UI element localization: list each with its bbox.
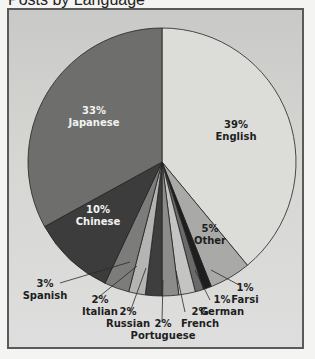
label-english-name: English xyxy=(215,131,256,143)
label-farsi-pct: 1% xyxy=(231,282,258,294)
label-japanese-name: Japanese xyxy=(68,117,119,129)
label-farsi-name: Farsi xyxy=(231,294,258,306)
label-french-name: French xyxy=(181,318,219,330)
label-german-name: German xyxy=(200,306,244,318)
label-spanish-pct: 3% xyxy=(23,278,68,290)
label-japanese-pct: 33% xyxy=(68,105,119,117)
label-english-pct: 39% xyxy=(215,119,256,131)
label-italian-pct: 2% xyxy=(82,294,118,306)
label-portuguese-name: Portuguese xyxy=(131,330,196,342)
label-other-pct: 5% xyxy=(194,223,226,235)
label-other-name: Other xyxy=(194,235,226,247)
label-chinese: 10% Chinese xyxy=(76,204,121,228)
label-other: 5% Other xyxy=(194,223,226,247)
label-japanese: 33% Japanese xyxy=(68,105,119,129)
label-russian-pct: 2% xyxy=(106,306,150,318)
pie-slices xyxy=(28,28,296,296)
label-chinese-pct: 10% xyxy=(76,204,121,216)
label-english: 39% English xyxy=(215,119,256,143)
label-spanish: 3% Spanish xyxy=(23,278,68,302)
label-chinese-name: Chinese xyxy=(76,216,121,228)
pie-chart xyxy=(0,0,315,359)
label-farsi: 1% Farsi xyxy=(231,282,258,306)
label-spanish-name: Spanish xyxy=(23,290,68,302)
